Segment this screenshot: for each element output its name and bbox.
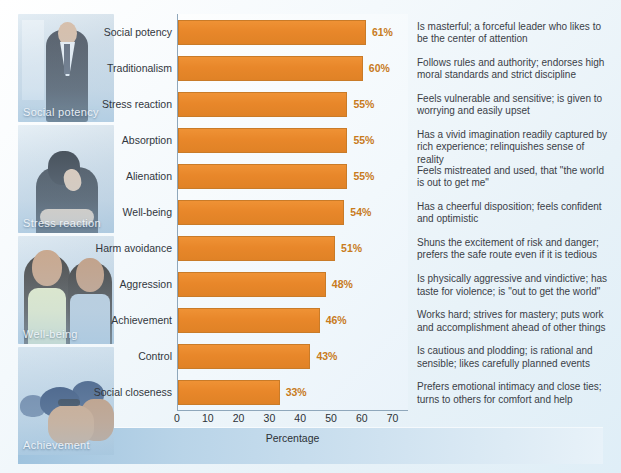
x-tick-label: 20 bbox=[233, 412, 245, 424]
category-label: Absorption bbox=[12, 134, 172, 146]
trait-descriptions: Is masterful; a forceful leader who like… bbox=[417, 14, 613, 414]
category-label: Achievement bbox=[12, 314, 172, 326]
bar-value-label: 54% bbox=[350, 200, 371, 225]
category-label: Aggression bbox=[12, 278, 172, 290]
trait-description: Works hard; strives for mastery; puts wo… bbox=[417, 309, 613, 334]
category-label: Alienation bbox=[12, 170, 172, 182]
bar-value-label: 61% bbox=[372, 20, 393, 45]
bar-social-closeness bbox=[178, 380, 280, 405]
bar-social-potency bbox=[178, 20, 366, 45]
bar-well-being bbox=[178, 200, 344, 225]
x-tick-label: 0 bbox=[174, 412, 180, 424]
trait-description: Has a cheerful disposition; feels confid… bbox=[417, 201, 613, 226]
trait-description: Is masterful; a forceful leader who like… bbox=[417, 21, 613, 46]
category-axis-labels: Social potencyTraditionalismStress react… bbox=[96, 14, 178, 414]
category-label: Control bbox=[12, 350, 172, 362]
x-axis-ticks: 010203040506070 bbox=[177, 412, 417, 428]
category-label: Social potency bbox=[12, 26, 172, 38]
category-label: Social closeness bbox=[12, 386, 172, 398]
category-label: Traditionalism bbox=[12, 62, 172, 74]
bar-aggression bbox=[178, 272, 326, 297]
trait-description: Shuns the excitement of risk and danger;… bbox=[417, 237, 613, 262]
category-label: Harm avoidance bbox=[12, 242, 172, 254]
plot-area: 61%60%55%55%55%54%51%48%46%43%33% bbox=[177, 14, 408, 411]
bar-value-label: 33% bbox=[286, 380, 307, 405]
bar-traditionalism bbox=[178, 56, 363, 81]
trait-description: Prefers emotional intimacy and close tie… bbox=[417, 381, 613, 406]
bar-achievement bbox=[178, 308, 320, 333]
trait-description: Has a vivid imagination readily captured… bbox=[417, 129, 613, 166]
x-tick-label: 50 bbox=[325, 412, 337, 424]
bar-absorption bbox=[178, 128, 347, 153]
x-tick-label: 60 bbox=[356, 412, 368, 424]
chart-figure: Social potency Stress reaction Well-bein… bbox=[0, 0, 621, 473]
x-tick-label: 70 bbox=[387, 412, 399, 424]
bar-value-label: 46% bbox=[326, 308, 347, 333]
bar-value-label: 48% bbox=[332, 272, 353, 297]
bar-value-label: 55% bbox=[353, 128, 374, 153]
trait-description: Follows rules and authority; endorses hi… bbox=[417, 57, 613, 82]
x-tick-label: 10 bbox=[202, 412, 214, 424]
bar-value-label: 60% bbox=[369, 56, 390, 81]
photo-caption: Achievement bbox=[23, 439, 111, 451]
trait-description: Is physically aggressive and vindictive;… bbox=[417, 273, 613, 298]
x-tick-label: 30 bbox=[264, 412, 276, 424]
trait-description: Is cautious and plodding; is rational an… bbox=[417, 345, 613, 370]
bar-value-label: 55% bbox=[353, 92, 374, 117]
bar-alienation bbox=[178, 164, 347, 189]
x-tick-label: 40 bbox=[294, 412, 306, 424]
trait-description: Feels vulnerable and sensitive; is given… bbox=[417, 93, 613, 118]
category-label: Well-being bbox=[12, 206, 172, 218]
bar-value-label: 55% bbox=[353, 164, 374, 189]
bar-harm-avoidance bbox=[178, 236, 335, 261]
bar-value-label: 51% bbox=[341, 236, 362, 261]
bar-control bbox=[178, 344, 310, 369]
x-axis-title: Percentage bbox=[177, 432, 408, 444]
bar-stress-reaction bbox=[178, 92, 347, 117]
trait-description: Feels mistreated and used, that "the wor… bbox=[417, 165, 613, 190]
category-label: Stress reaction bbox=[12, 98, 172, 110]
bar-value-label: 43% bbox=[316, 344, 337, 369]
